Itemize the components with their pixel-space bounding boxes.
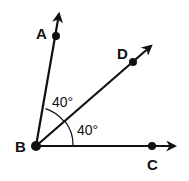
label-b: B	[15, 138, 26, 155]
label-c: C	[147, 156, 158, 173]
arc-angle-dbc	[65, 121, 73, 146]
point-c	[148, 142, 156, 150]
label-a: A	[36, 25, 47, 42]
label-d: D	[117, 45, 128, 62]
arc-angle-abd	[45, 109, 63, 122]
point-d	[129, 58, 137, 66]
label-angle-dbc: 40°	[77, 122, 98, 138]
label-angle-abd: 40°	[52, 94, 73, 110]
angle-diagram: A D B C 40° 40°	[0, 0, 189, 181]
point-b	[31, 141, 41, 151]
point-a	[52, 32, 60, 40]
